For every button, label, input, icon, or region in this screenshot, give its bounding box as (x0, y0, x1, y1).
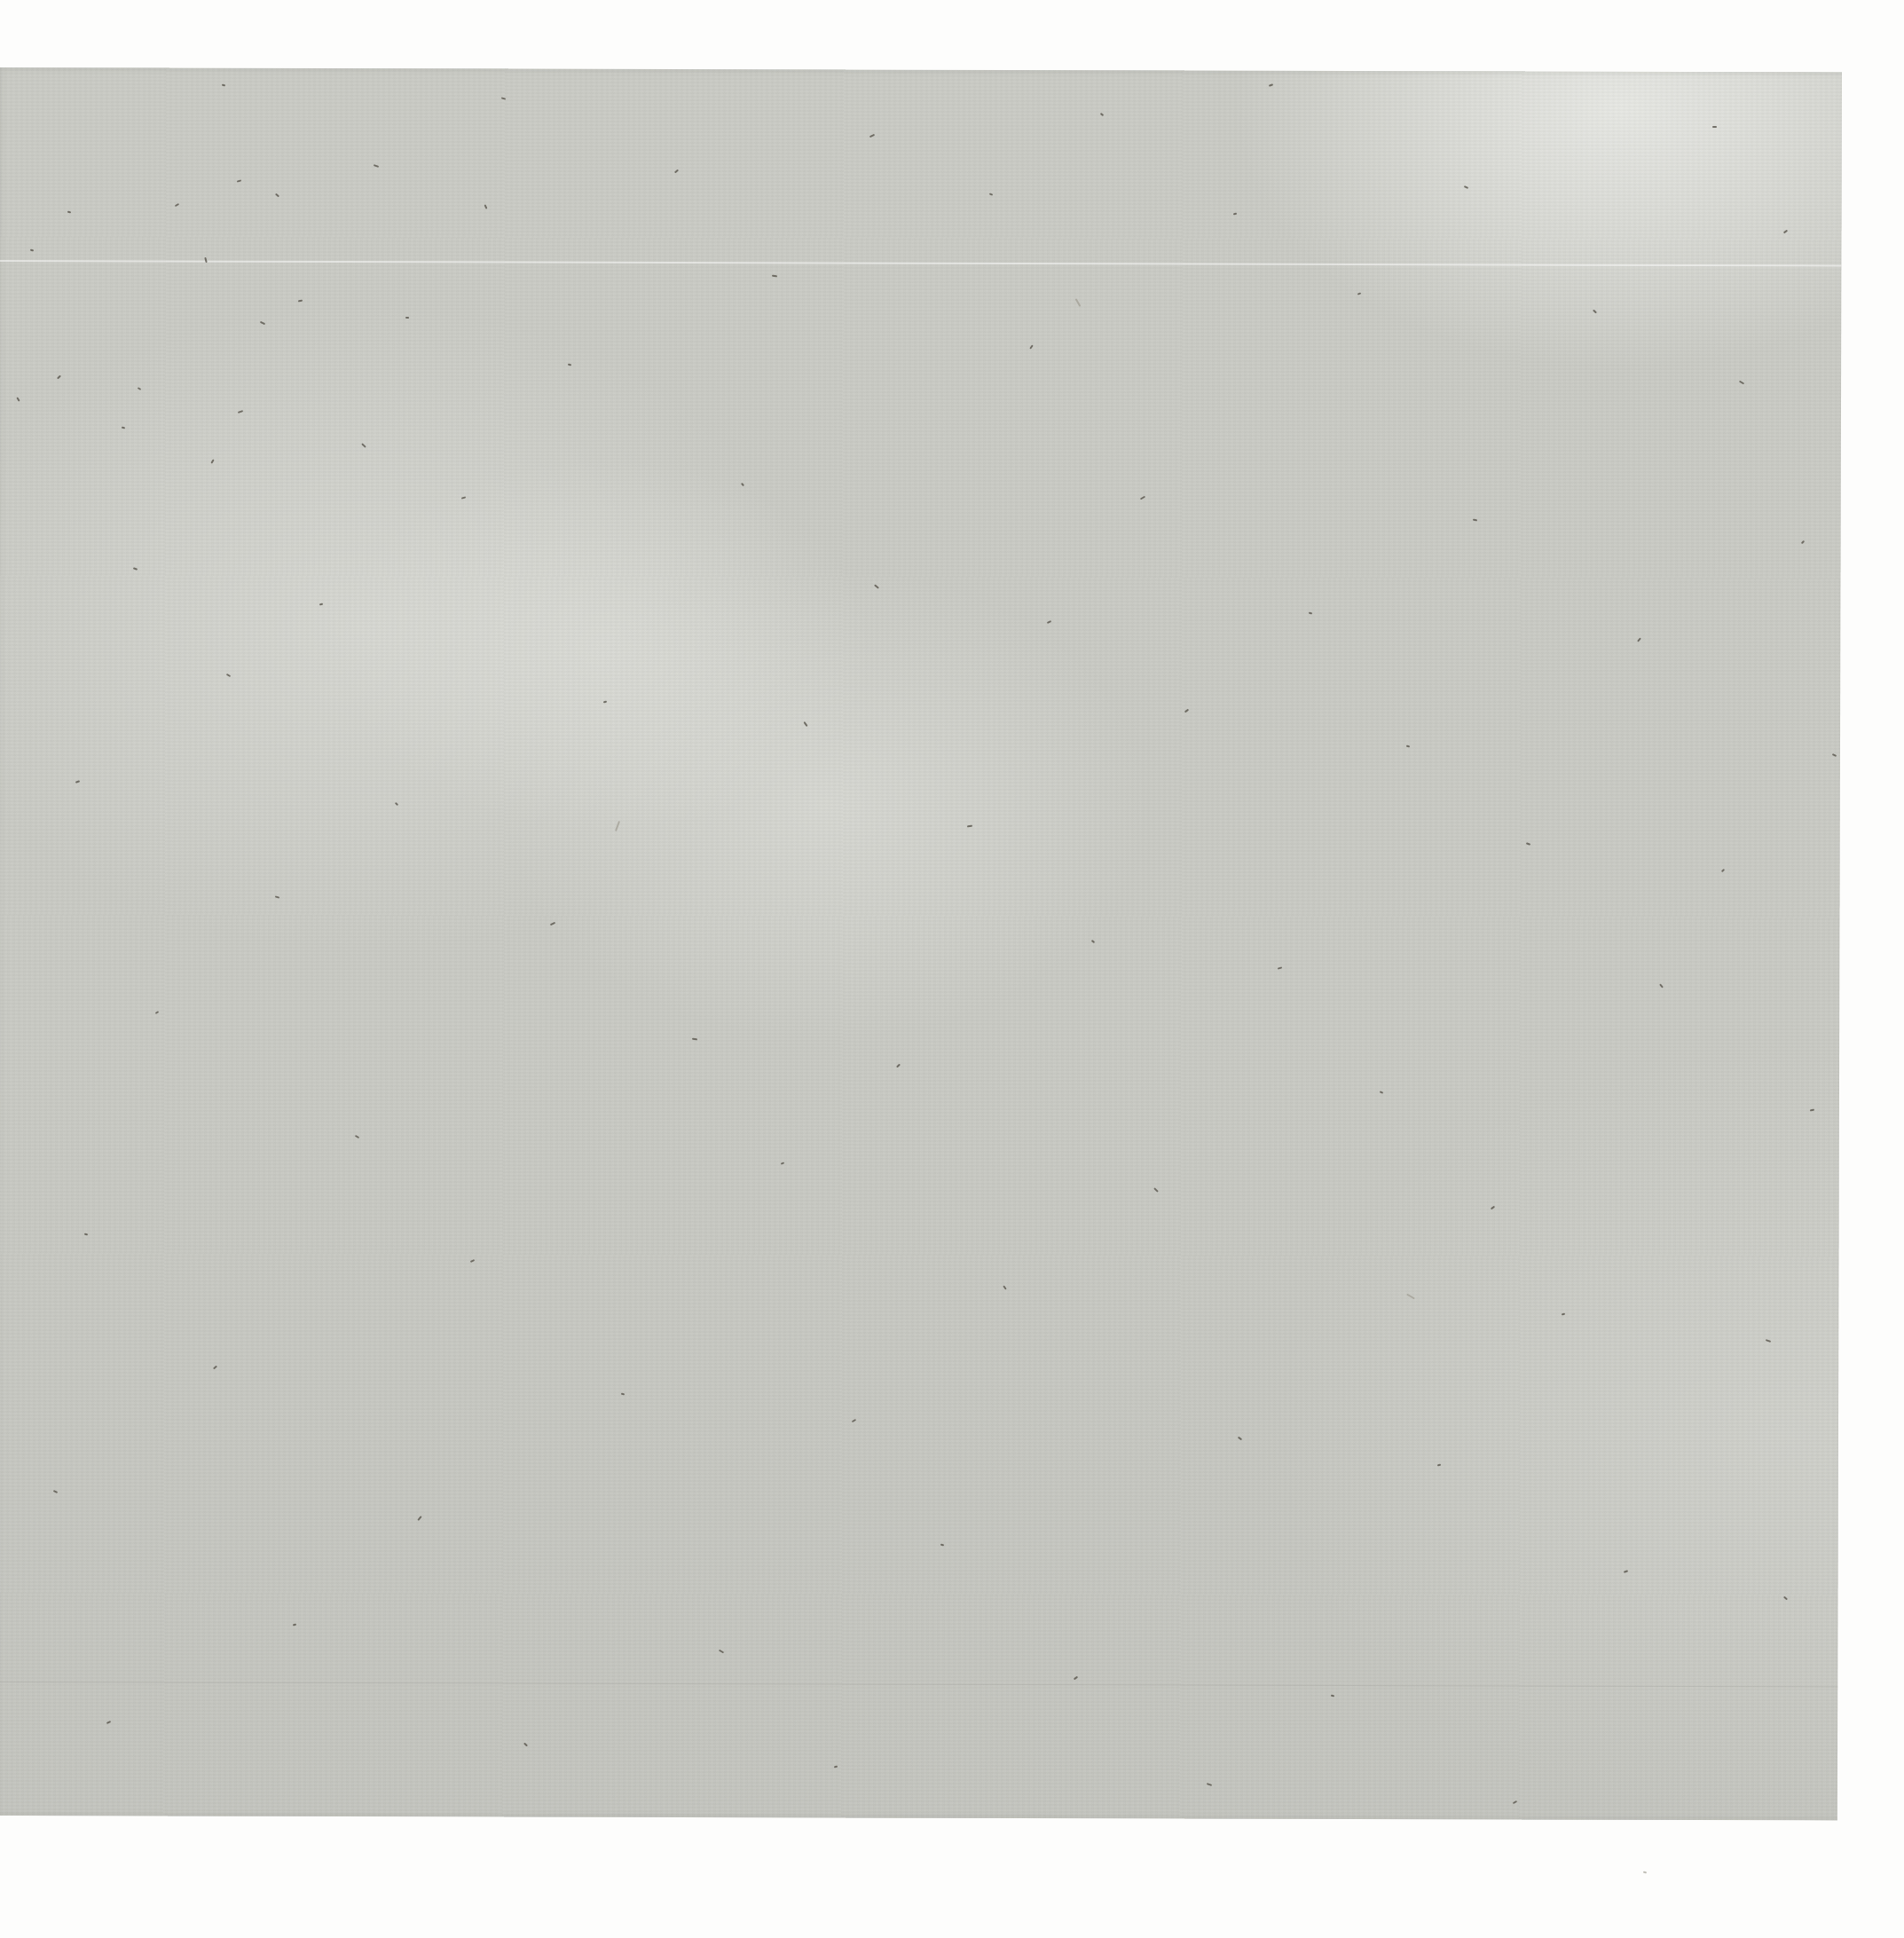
speck (1643, 1871, 1647, 1874)
paper-grain-overlay (0, 67, 1842, 1820)
paper-sheet (0, 67, 1842, 1820)
scratch-line (0, 260, 1841, 266)
scratch-line (0, 1682, 1837, 1687)
photo-white-border (0, 0, 1904, 1938)
